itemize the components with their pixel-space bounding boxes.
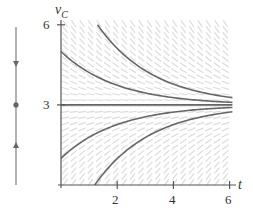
slope-segment <box>88 162 93 168</box>
slope-segment <box>154 133 161 137</box>
slope-segment <box>188 122 196 125</box>
slope-segment <box>223 20 228 27</box>
slope-segment <box>155 56 161 61</box>
slope-segment <box>103 117 111 119</box>
slope-segment <box>80 32 85 38</box>
slope-segment <box>61 122 69 125</box>
slope-segment <box>130 32 135 38</box>
slope-segment <box>222 69 229 73</box>
slope-segment <box>147 173 152 179</box>
slope-segment <box>95 93 103 94</box>
slope-segment <box>197 44 203 50</box>
slope-segment <box>71 168 76 174</box>
slope-segment <box>197 133 204 137</box>
slope-segment <box>154 100 162 101</box>
slope-segment <box>129 100 137 101</box>
slope-segment <box>121 63 128 68</box>
slope-segment <box>96 38 101 44</box>
slope-segment <box>222 56 228 61</box>
slope-segment <box>80 26 85 32</box>
slope-segment <box>196 81 203 84</box>
slope-segment <box>197 168 202 174</box>
slope-segment <box>71 162 76 168</box>
slope-segment <box>171 93 179 94</box>
slope-segment <box>87 56 93 61</box>
slope-segment <box>171 69 178 73</box>
slope-segment <box>130 150 136 155</box>
slope-segment <box>206 32 211 38</box>
slope-segment <box>129 139 136 143</box>
slope-segment <box>138 145 144 150</box>
slope-segment <box>189 156 195 162</box>
slope-segment <box>155 162 160 168</box>
slope-segment <box>88 156 94 162</box>
slope-segment <box>180 69 187 73</box>
slope-segment <box>80 20 85 27</box>
slope-segment <box>205 81 212 84</box>
slope-segment <box>87 117 95 119</box>
slope-segment <box>198 32 203 38</box>
slope-segment <box>188 111 196 112</box>
slope-segment <box>155 69 162 73</box>
slope-segment <box>214 50 220 55</box>
slope-segment <box>198 20 203 27</box>
slope-segment <box>222 122 230 125</box>
slope-segment <box>180 56 186 61</box>
slope-segment <box>155 32 160 38</box>
slope-segment <box>206 50 212 55</box>
slope-segment <box>172 26 177 32</box>
slope-segment <box>181 26 186 32</box>
slope-segment <box>113 145 119 150</box>
slope-segment <box>172 63 179 68</box>
slope-segment <box>129 93 137 94</box>
slope-segment <box>221 117 229 119</box>
slope-segment <box>147 26 152 32</box>
slope-segment <box>87 100 95 101</box>
slope-segment <box>104 69 111 73</box>
slope-segment <box>214 56 220 61</box>
slope-segment <box>189 50 195 55</box>
slope-segment <box>154 81 161 84</box>
slope-segment <box>139 32 144 38</box>
slope-segment <box>181 173 186 179</box>
slope-segment <box>104 63 111 68</box>
slope-segment <box>138 150 144 155</box>
slope-segment <box>206 38 211 44</box>
slope-segment <box>172 162 177 168</box>
slope-segment <box>163 150 169 155</box>
slope-segment <box>213 111 221 112</box>
slope-segment <box>155 145 161 150</box>
slope-segment <box>103 100 111 101</box>
slope-segment <box>214 173 219 179</box>
slope-segment <box>206 168 211 174</box>
slope-segment <box>96 69 103 73</box>
slope-segment <box>137 87 145 89</box>
slope-segment <box>146 111 154 112</box>
slope-segment <box>71 38 76 44</box>
slope-segment <box>146 63 153 68</box>
slope-segment <box>189 56 195 61</box>
slope-segment <box>188 69 195 73</box>
slope-segment <box>206 44 212 50</box>
slope-segment <box>205 75 212 79</box>
arrow-up-icon <box>13 142 19 148</box>
slope-segment <box>171 128 178 131</box>
slope-segment <box>87 145 93 150</box>
slope-segment <box>189 38 194 44</box>
slope-segment <box>62 75 69 79</box>
slope-segment <box>78 81 85 84</box>
slope-segment <box>154 111 162 112</box>
slope-segment <box>171 87 179 89</box>
slope-segment <box>138 50 144 55</box>
slope-segment <box>105 44 111 50</box>
slope-segment <box>113 38 118 44</box>
slope-segment <box>205 122 213 125</box>
plot-svg <box>0 0 253 214</box>
slope-segment <box>196 128 203 131</box>
slope-segment <box>171 133 178 137</box>
slope-segment <box>205 145 211 150</box>
slope-segment <box>139 20 144 27</box>
slope-segment <box>62 69 69 73</box>
slope-segment <box>171 100 179 101</box>
slope-segment <box>164 173 169 179</box>
